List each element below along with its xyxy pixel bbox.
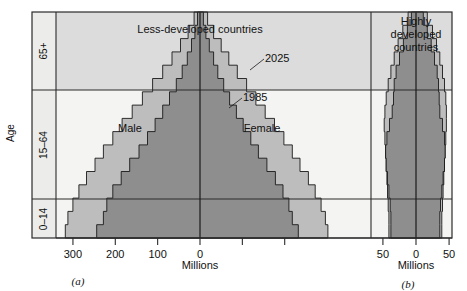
tick-label: 100 bbox=[148, 248, 166, 260]
tick-label: 50 bbox=[377, 248, 389, 260]
age-band-label-15-64: 15–64 bbox=[38, 131, 49, 159]
panel-b-title-line-1: Highly bbox=[401, 15, 432, 27]
panel-b-title-line-3: countries bbox=[394, 41, 439, 53]
panel-a-caption: (a) bbox=[72, 275, 85, 288]
panel-a-x-ticks: 3002001000 bbox=[56, 238, 371, 260]
panel-b-x-axis-label: Millions bbox=[398, 259, 435, 271]
annotation-1985: 1985 bbox=[243, 91, 267, 103]
panel-b-x-ticks: 50050 bbox=[371, 238, 455, 260]
panel-b-caption: (b) bbox=[402, 278, 415, 291]
annotation-2025: 2025 bbox=[265, 52, 289, 64]
panel-a-female-label: Female bbox=[244, 122, 281, 134]
population-pyramid-figure: 65+ 15–64 0–14 Age Less-developed countr… bbox=[0, 0, 467, 291]
panel-b-title-line-2: developed bbox=[391, 28, 442, 40]
panel-a-title: Less-developed countries bbox=[137, 23, 263, 35]
age-band-label-65plus: 65+ bbox=[38, 42, 49, 59]
tick-label: 200 bbox=[106, 248, 124, 260]
tick-label: 300 bbox=[64, 248, 82, 260]
panel-a-x-axis-label: Millions bbox=[182, 259, 219, 271]
tick-label: 50 bbox=[443, 248, 455, 260]
panel-a-male-label: Male bbox=[118, 122, 142, 134]
figure-svg: 65+ 15–64 0–14 Age Less-developed countr… bbox=[0, 0, 467, 291]
y-axis-title: Age bbox=[5, 124, 16, 142]
age-band-label-0-14: 0–14 bbox=[38, 207, 49, 230]
